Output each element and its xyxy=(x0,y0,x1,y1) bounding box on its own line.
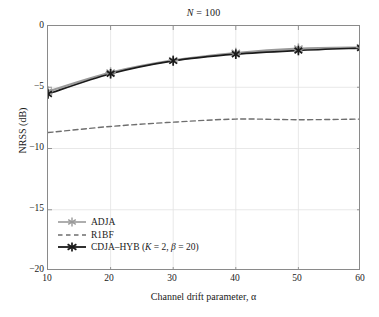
series-lines xyxy=(48,47,360,132)
legend-label-r1bf: R1BF xyxy=(91,229,114,242)
legend-swatch-adja xyxy=(57,216,87,228)
legend-item-r1bf: R1BF xyxy=(57,229,199,242)
y-tick-label-0: 0 xyxy=(8,20,44,30)
legend-swatch-r1bf xyxy=(57,229,87,241)
chart-title: N = 100 xyxy=(47,7,360,18)
x-tick-label-4: 50 xyxy=(282,273,312,283)
x-tick-label-2: 30 xyxy=(157,273,187,283)
legend-swatch-cdja-hyb xyxy=(57,241,87,253)
legend-item-cdja-hyb: CDJA–HYB (K = 2, β = 20) xyxy=(57,241,199,254)
chart-figure: N = 100 0 −5 −10 −15 −20 10 20 30 40 50 … xyxy=(0,0,379,317)
legend-item-adja: ADJA xyxy=(57,216,199,229)
x-axis-label: Channel drift parameter, α xyxy=(47,291,360,302)
y-axis-label: NRSS (dB) xyxy=(17,71,28,191)
legend-label-cdja-hyb: CDJA–HYB (K = 2, β = 20) xyxy=(91,241,199,254)
y-tick-label-3: −15 xyxy=(8,203,44,213)
series-markers xyxy=(48,42,360,99)
x-tick-label-3: 40 xyxy=(220,273,250,283)
legend: ADJA R1BF CDJA–HYB (K = 2, β = 20) xyxy=(57,216,199,254)
x-tick-label-5: 60 xyxy=(345,273,375,283)
x-tick-label-1: 20 xyxy=(94,273,124,283)
legend-label-adja: ADJA xyxy=(91,216,115,229)
x-tick-label-0: 10 xyxy=(32,273,62,283)
